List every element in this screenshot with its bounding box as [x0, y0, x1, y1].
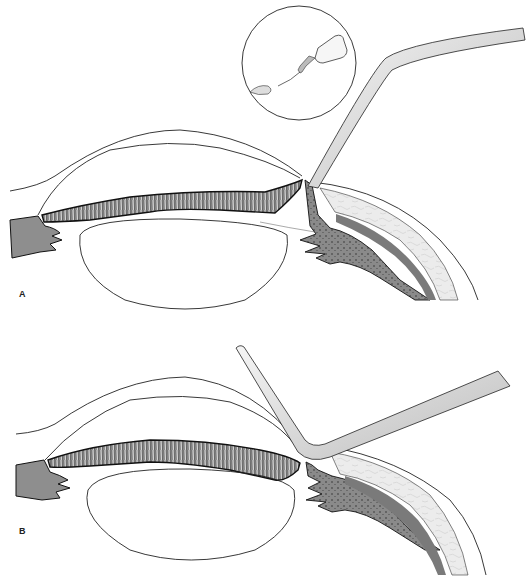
iris-b: [48, 440, 300, 480]
panel-a: [10, 6, 525, 309]
cannula-b: [236, 346, 510, 460]
panel-label-a: A: [19, 289, 26, 299]
zonule-line: [260, 222, 315, 232]
cornea-outer: [10, 130, 302, 191]
panel-b: [16, 346, 510, 575]
lens: [80, 219, 288, 309]
cornea-outer-b: [16, 377, 302, 448]
iris: [42, 180, 302, 222]
inset-circle: [242, 6, 356, 120]
panel-label-b: B: [19, 526, 26, 536]
surgical-illustration: [0, 0, 527, 584]
lens-b: [87, 469, 295, 560]
